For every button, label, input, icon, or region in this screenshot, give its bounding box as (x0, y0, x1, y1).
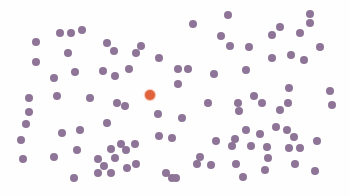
purple-dot[interactable] (285, 84, 293, 92)
purple-dot[interactable] (268, 54, 276, 62)
purple-dot[interactable] (250, 92, 258, 100)
purple-dot[interactable] (258, 99, 266, 107)
purple-dot[interactable] (25, 94, 33, 102)
purple-dot[interactable] (50, 74, 58, 82)
purple-dot[interactable] (19, 155, 27, 163)
purple-dot[interactable] (71, 68, 79, 76)
purple-dot[interactable] (245, 43, 253, 51)
purple-dot[interactable] (189, 20, 197, 28)
purple-dot[interactable] (56, 29, 64, 37)
purple-dot[interactable] (174, 80, 182, 88)
purple-dot[interactable] (107, 169, 115, 177)
purple-dot[interactable] (174, 65, 182, 73)
purple-dot[interactable] (283, 126, 291, 134)
purple-dot[interactable] (111, 154, 119, 162)
purple-dot[interactable] (306, 10, 314, 18)
purple-dot[interactable] (232, 160, 240, 168)
purple-dot[interactable] (58, 129, 66, 137)
purple-dot[interactable] (242, 126, 250, 134)
purple-dot[interactable] (239, 173, 247, 181)
purple-dot[interactable] (247, 142, 255, 150)
purple-dot[interactable] (313, 137, 321, 145)
purple-dot[interactable] (99, 67, 107, 75)
purple-dot[interactable] (25, 108, 33, 116)
purple-dot[interactable] (184, 65, 192, 73)
purple-dot[interactable] (17, 136, 25, 144)
purple-dot[interactable] (132, 49, 140, 57)
purple-dot[interactable] (210, 70, 218, 78)
purple-dot[interactable] (122, 146, 130, 154)
purple-dot[interactable] (53, 92, 61, 100)
purple-dot[interactable] (121, 102, 129, 110)
purple-dot[interactable] (111, 72, 119, 80)
purple-dot[interactable] (50, 153, 58, 161)
purple-dot[interactable] (235, 107, 243, 115)
purple-dot[interactable] (326, 87, 334, 95)
purple-dot[interactable] (328, 101, 336, 109)
purple-dot[interactable] (110, 47, 118, 55)
purple-dot[interactable] (207, 161, 215, 169)
purple-dot[interactable] (284, 99, 292, 107)
purple-dot[interactable] (76, 126, 84, 134)
purple-dot[interactable] (264, 154, 272, 162)
purple-dot[interactable] (311, 167, 319, 175)
purple-dot[interactable] (67, 29, 75, 37)
purple-dot[interactable] (224, 11, 232, 19)
dot-field (0, 0, 350, 196)
purple-dot[interactable] (287, 51, 295, 59)
purple-dot[interactable] (217, 32, 225, 40)
purple-dot[interactable] (212, 137, 220, 145)
purple-dot[interactable] (32, 38, 40, 46)
purple-dot[interactable] (32, 58, 40, 66)
purple-dot[interactable] (73, 146, 81, 154)
purple-dot[interactable] (193, 160, 201, 168)
purple-dot[interactable] (306, 19, 314, 27)
purple-dot[interactable] (272, 123, 280, 131)
purple-dot[interactable] (316, 43, 324, 51)
purple-dot[interactable] (107, 145, 115, 153)
purple-dot[interactable] (103, 119, 111, 127)
purple-dot[interactable] (276, 23, 284, 31)
purple-dot[interactable] (228, 142, 236, 150)
purple-dot[interactable] (22, 120, 30, 128)
purple-dot[interactable] (94, 169, 102, 177)
purple-dot[interactable] (155, 54, 163, 62)
purple-dot[interactable] (86, 94, 94, 102)
purple-dot[interactable] (268, 31, 276, 39)
purple-dot[interactable] (64, 49, 72, 57)
purple-dot[interactable] (125, 65, 133, 73)
purple-dot[interactable] (296, 29, 304, 37)
purple-dot[interactable] (300, 56, 308, 64)
purple-dot[interactable] (168, 134, 176, 142)
purple-dot[interactable] (137, 42, 145, 50)
purple-dot[interactable] (234, 99, 242, 107)
purple-dot[interactable] (291, 160, 299, 168)
purple-dot[interactable] (172, 174, 180, 182)
purple-dot[interactable] (290, 133, 298, 141)
purple-dot[interactable] (132, 160, 140, 168)
purple-dot[interactable] (131, 140, 139, 148)
purple-dot[interactable] (155, 132, 163, 140)
purple-dot[interactable] (261, 166, 269, 174)
purple-dot[interactable] (178, 114, 186, 122)
purple-dot[interactable] (154, 110, 162, 118)
purple-dot[interactable] (113, 99, 121, 107)
purple-dot[interactable] (226, 42, 234, 50)
purple-dot[interactable] (296, 144, 304, 152)
purple-dot[interactable] (276, 106, 284, 114)
purple-dot[interactable] (204, 99, 212, 107)
purple-dot[interactable] (242, 66, 250, 74)
purple-dot[interactable] (123, 164, 131, 172)
purple-dot[interactable] (100, 162, 108, 170)
purple-dot[interactable] (256, 130, 264, 138)
orange-target-dot[interactable] (145, 90, 155, 100)
purple-dot[interactable] (78, 26, 86, 34)
purple-dot[interactable] (285, 144, 293, 152)
purple-dot[interactable] (70, 174, 78, 182)
purple-dot[interactable] (103, 39, 111, 47)
purple-dot[interactable] (263, 143, 271, 151)
